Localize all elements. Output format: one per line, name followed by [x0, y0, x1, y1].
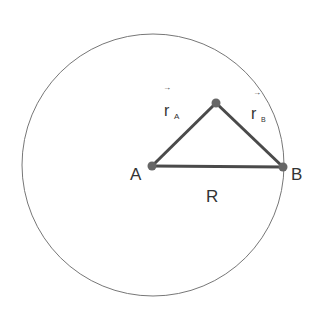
label-rA-subscript: A — [174, 112, 179, 121]
diagram-canvas — [0, 0, 317, 313]
point-A — [148, 162, 157, 171]
segment-AB — [152, 166, 283, 167]
label-rB-subscript: B — [261, 116, 266, 123]
vector-rA — [152, 103, 216, 166]
label-rA: r — [164, 102, 169, 120]
point-apex — [212, 99, 221, 108]
label-rA-arrow: → — [163, 83, 171, 92]
label-R: R — [206, 187, 218, 207]
point-B — [279, 163, 288, 172]
label-rB-arrow: → — [253, 88, 261, 97]
label-A: A — [130, 165, 141, 185]
label-rB: r — [251, 105, 256, 123]
label-B: B — [291, 165, 302, 185]
